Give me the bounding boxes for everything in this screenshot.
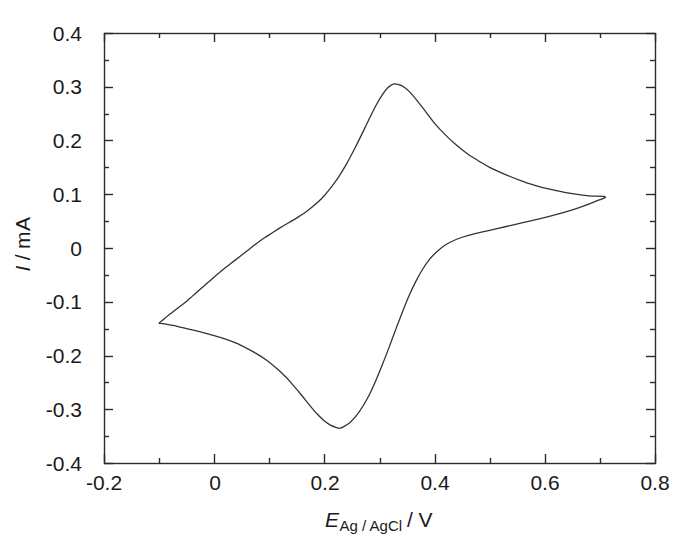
y-tick-label: -0.2 <box>20 344 82 368</box>
y-tick-label: 0.2 <box>20 129 82 153</box>
x-axis-subscript: Ag / AgCl <box>340 517 403 534</box>
cyclic-voltammogram-figure: 0.4 0.3 0.2 0.1 0 -0.1 -0.2 -0.3 -0.4 -0… <box>0 0 678 559</box>
x-axis-label: EAg / AgCl/V <box>279 508 479 534</box>
y-tick-label: -0.3 <box>20 398 82 422</box>
y-axis-unit: mA <box>11 216 34 249</box>
x-tick-label: 0 <box>175 471 255 495</box>
x-tick-label: -0.2 <box>64 471 144 495</box>
y-axis-symbol: I <box>11 265 34 271</box>
y-axis-separator: / <box>11 249 34 265</box>
x-tick-label: 0.2 <box>285 471 365 495</box>
x-tick-label: 0.8 <box>615 471 678 495</box>
x-tick-label: 0.6 <box>505 471 585 495</box>
x-axis-symbol: E <box>325 508 340 531</box>
x-tick-label: 0.4 <box>395 471 475 495</box>
x-axis-separator: / <box>402 508 418 531</box>
voltammogram-curve <box>159 84 605 428</box>
cv-trace <box>159 84 605 428</box>
y-axis-label: I/mA <box>11 194 35 294</box>
y-tick-label: 0.3 <box>20 75 82 99</box>
y-tick-label: 0.4 <box>20 22 82 46</box>
x-axis-unit: V <box>418 508 433 531</box>
